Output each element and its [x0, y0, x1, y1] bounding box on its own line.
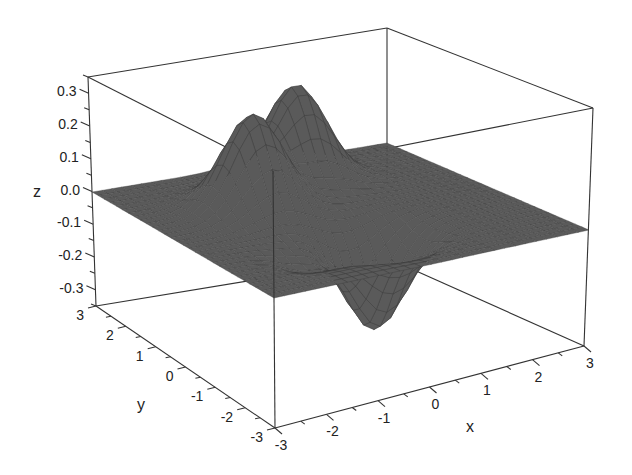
z-tick-label: -0.1: [57, 214, 81, 230]
y-axis-label: y: [137, 396, 145, 413]
x-tick-label: -3: [275, 437, 288, 453]
x-axis: -3-2-10123: [275, 346, 594, 453]
y-tick-label: -1: [191, 388, 204, 404]
x-tick-label: -1: [378, 410, 391, 426]
y-tick-label: 0: [166, 368, 174, 384]
y-tick-label: 2: [106, 327, 114, 343]
x-tick-label: 1: [483, 382, 491, 398]
z-tick-label: -0.3: [59, 280, 83, 296]
y-tick-label: 1: [136, 348, 144, 364]
surface-mesh: [92, 85, 589, 329]
z-axis: 0.30.20.10.0-0.1-0.2-0.3: [57, 75, 96, 306]
z-tick-label: 0.1: [59, 149, 79, 165]
x-tick-label: 3: [586, 355, 594, 371]
x-tick-label: -2: [326, 423, 339, 439]
z-tick-label: 0.2: [58, 116, 78, 132]
z-axis-label: z: [33, 183, 41, 200]
z-tick-label: 0.3: [57, 83, 77, 99]
surface-plot: 0.30.20.10.0-0.1-0.2-0.3 3210-1-2-3 -3-2…: [0, 0, 632, 475]
y-tick-label: -2: [221, 409, 234, 425]
y-tick-label: -3: [251, 429, 264, 445]
x-tick-label: 0: [432, 396, 440, 412]
y-tick-label: 3: [76, 307, 84, 323]
x-axis-label: x: [466, 418, 474, 435]
x-tick-label: 2: [535, 369, 543, 385]
z-tick-label: -0.2: [58, 247, 82, 263]
z-tick-label: 0.0: [61, 182, 81, 198]
y-axis: 3210-1-2-3: [76, 306, 275, 445]
